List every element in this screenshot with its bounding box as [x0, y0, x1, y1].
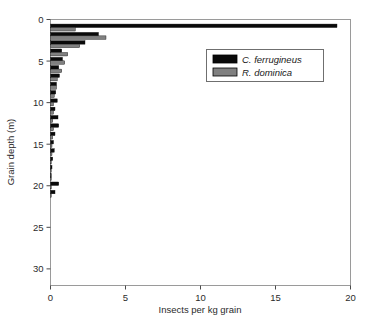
bar-c-ferrugineus-depth-9	[51, 91, 56, 94]
bar-r-dominica-depth-1	[51, 28, 76, 31]
bar-r-dominica-depth-8	[51, 86, 57, 89]
chart-legend: C. ferrugineus R. dominica	[207, 50, 324, 82]
bar-c-ferrugineus-depth-1	[51, 24, 338, 27]
bar-c-ferrugineus-depth-2	[51, 32, 99, 35]
chart-figure: 05101520 051015202530 Insects per kg gra…	[0, 0, 368, 326]
x-tick-label-0: 0	[48, 292, 53, 303]
bar-r-dominica-depth-21	[51, 194, 52, 197]
bar-r-dominica-depth-15	[51, 144, 53, 147]
legend-swatch-r-dominica	[213, 68, 237, 76]
bar-c-ferrugineus-depth-10	[51, 99, 58, 102]
y-tick-label-25: 25	[33, 222, 44, 233]
bar-c-ferrugineus-depth-4	[51, 49, 62, 52]
bar-r-dominica-depth-3	[51, 44, 80, 47]
bar-c-ferrugineus-depth-5	[51, 57, 63, 60]
bar-c-ferrugineus-depth-11	[51, 107, 56, 110]
x-tick-label-15: 15	[270, 292, 281, 303]
bar-c-ferrugineus-depth-12	[51, 115, 59, 118]
bar-r-dominica-depth-11	[51, 111, 54, 114]
bar-r-dominica-depth-19	[51, 177, 52, 180]
bar-c-ferrugineus-depth-15	[51, 140, 54, 143]
y-tick-label-30: 30	[33, 263, 44, 274]
y-tick-label-20: 20	[33, 180, 44, 191]
x-tick-label-10: 10	[195, 292, 206, 303]
bar-r-dominica-depth-6	[51, 69, 62, 72]
y-axis-ticks: 051015202530	[33, 14, 51, 274]
bar-c-ferrugineus-depth-16	[51, 149, 55, 152]
bar-r-dominica-depth-18	[51, 169, 52, 172]
bar-c-ferrugineus-depth-6	[51, 66, 59, 69]
bar-c-ferrugineus-depth-14	[51, 132, 56, 135]
legend-label-r-dominica: R. dominica	[242, 67, 292, 78]
x-tick-label-20: 20	[345, 292, 356, 303]
y-tick-label-15: 15	[33, 139, 44, 150]
bar-c-ferrugineus-depth-17	[51, 157, 53, 160]
bar-r-dominica-depth-10	[51, 102, 54, 105]
bar-r-dominica-depth-7	[51, 77, 58, 80]
bar-c-ferrugineus-depth-3	[51, 41, 86, 44]
x-axis-title: Insects per kg grain	[159, 304, 242, 315]
bar-r-dominica-depth-16	[51, 152, 53, 155]
legend-label-c-ferrugineus: C. ferrugineus	[242, 54, 302, 65]
x-tick-label-5: 5	[123, 292, 128, 303]
bar-c-ferrugineus-depth-7	[51, 74, 60, 77]
bar-r-dominica-depth-12	[51, 119, 53, 122]
bar-c-ferrugineus-depth-19	[51, 174, 52, 177]
bar-c-ferrugineus-depth-13	[51, 124, 59, 127]
y-tick-label-10: 10	[33, 97, 44, 108]
bar-r-dominica-depth-14	[51, 136, 53, 139]
bar-c-ferrugineus-depth-8	[51, 82, 57, 85]
legend-swatch-c-ferrugineus	[213, 55, 237, 63]
bar-r-dominica-depth-2	[51, 36, 107, 39]
bar-r-dominica-depth-5	[51, 61, 65, 64]
y-axis-title: Grain depth (m)	[5, 119, 16, 186]
bar-r-dominica-depth-4	[51, 52, 68, 55]
bar-r-dominica-depth-20	[51, 185, 52, 188]
y-tick-label-0: 0	[38, 14, 43, 25]
x-axis-ticks: 05101520	[48, 286, 356, 303]
bar-c-ferrugineus-depth-21	[51, 190, 56, 193]
bar-c-ferrugineus-depth-18	[51, 165, 53, 168]
y-tick-label-5: 5	[38, 56, 43, 67]
bar-r-dominica-depth-13	[51, 127, 54, 130]
bar-r-dominica-depth-17	[51, 161, 52, 164]
bar-c-ferrugineus-depth-20	[51, 182, 59, 185]
bar-chart-plot: 05101520 051015202530 Insects per kg gra…	[0, 0, 368, 326]
bar-r-dominica-depth-9	[51, 94, 55, 97]
